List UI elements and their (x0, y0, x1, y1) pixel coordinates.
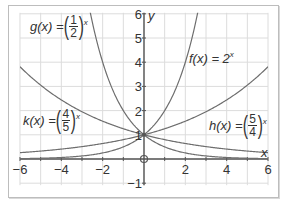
fraction-h: 5 4 (248, 113, 257, 138)
label-h-prefix: h(x) = (209, 118, 243, 133)
frac-num: 5 (248, 113, 257, 126)
y-axis-label: y (147, 8, 156, 23)
x-tick-label: −6 (13, 162, 28, 177)
x-tick-label: 2 (182, 162, 189, 177)
label-k-prefix: k(x) = (23, 113, 56, 128)
y-tick-label: −1 (127, 176, 142, 191)
fraction-g: 1 2 (69, 14, 78, 39)
exponent: x (76, 112, 80, 121)
frac-den: 4 (249, 126, 256, 138)
y-tick-label: 2 (135, 104, 142, 119)
y-tick-label: 1 (135, 128, 142, 143)
label-g-prefix: g(x) = (30, 19, 64, 34)
label-g: g(x) = ( 1 2 ) x (30, 13, 88, 39)
frac-den: 5 (63, 121, 70, 133)
frac-num: 1 (69, 14, 78, 27)
paren-open: ( (242, 112, 247, 138)
x-tick-label: −2 (95, 162, 110, 177)
x-tick-label: −4 (54, 162, 69, 177)
exponent: x (263, 117, 267, 126)
intersection-point (142, 133, 146, 137)
label-h: h(x) = ( 5 4 ) x (209, 112, 267, 138)
label-k: k(x) = ( 4 5 ) x (23, 107, 80, 133)
y-tick-label: 3 (135, 79, 142, 94)
y-tick-label: 6 (135, 7, 142, 22)
x-axis-label: x (260, 145, 268, 160)
exponent: x (230, 50, 234, 59)
label-f: f(x) = 2 x (189, 51, 234, 66)
fraction-k: 4 5 (62, 108, 71, 133)
paren-open: ( (63, 13, 68, 39)
exponent: x (84, 18, 88, 27)
y-tick-label: 5 (135, 31, 142, 46)
x-tick-label: 6 (264, 162, 271, 177)
paren-open: ( (56, 107, 61, 133)
label-f-prefix: f(x) = 2 (189, 51, 230, 66)
x-tick-label: 4 (223, 162, 230, 177)
y-tick-label: 4 (135, 55, 142, 70)
frac-den: 2 (70, 27, 77, 39)
frac-num: 4 (62, 108, 71, 121)
